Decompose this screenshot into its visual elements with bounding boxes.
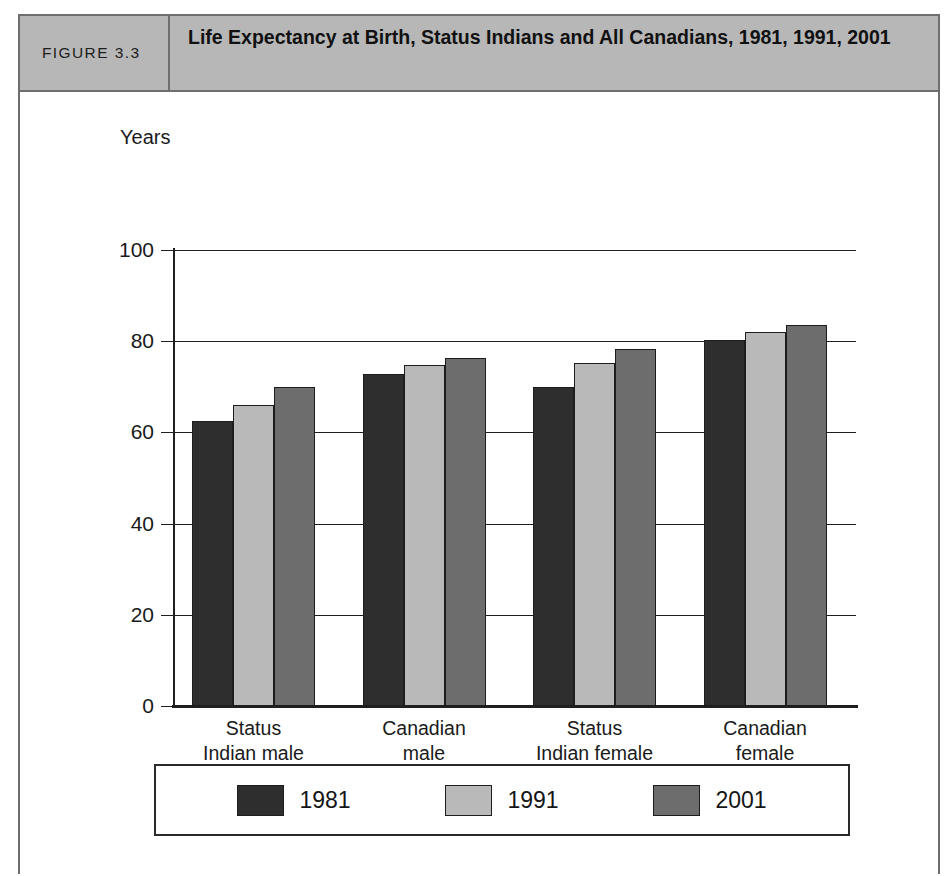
y-tick-label-40: 40 bbox=[131, 512, 154, 536]
legend-item[interactable]: 2001 bbox=[653, 785, 766, 816]
y-tick-mark-40 bbox=[161, 524, 174, 525]
y-tick-label-80: 80 bbox=[131, 329, 154, 353]
y-tick-label-20: 20 bbox=[131, 603, 154, 627]
figure-frame: FIGURE 3.3 Life Expectancy at Birth, Sta… bbox=[18, 14, 940, 874]
bar bbox=[574, 363, 615, 706]
bar bbox=[274, 387, 315, 706]
legend-label: 1991 bbox=[507, 787, 558, 814]
category-label-line: male bbox=[339, 741, 509, 766]
y-tick-mark-80 bbox=[161, 341, 174, 342]
y-tick-label-0: 0 bbox=[142, 694, 154, 718]
legend-item[interactable]: 1981 bbox=[237, 785, 350, 816]
bar-group bbox=[363, 250, 486, 706]
chart-legend: 198119912001 bbox=[154, 764, 850, 836]
legend-swatch-icon bbox=[653, 785, 700, 816]
y-tick-label-100: 100 bbox=[119, 238, 154, 262]
legend-label: 1981 bbox=[299, 787, 350, 814]
chart-area: Years 020406080100 StatusIndian maleCana… bbox=[20, 92, 938, 876]
x-axis-category-label: StatusIndian female bbox=[510, 716, 680, 766]
legend-swatch-icon bbox=[237, 785, 284, 816]
bar bbox=[745, 332, 786, 706]
bar bbox=[533, 387, 574, 706]
y-tick-mark-20 bbox=[161, 615, 174, 616]
legend-label: 2001 bbox=[715, 787, 766, 814]
category-label-line: Indian female bbox=[510, 741, 680, 766]
x-axis-category-label: Canadianfemale bbox=[680, 716, 850, 766]
bar-group bbox=[192, 250, 315, 706]
y-tick-mark-0 bbox=[161, 706, 174, 707]
x-axis-category-label: StatusIndian male bbox=[169, 716, 339, 766]
y-tick-mark-100 bbox=[161, 250, 174, 251]
figure-number-label: FIGURE 3.3 bbox=[20, 16, 168, 90]
bar-series-container bbox=[174, 250, 856, 706]
bar bbox=[363, 374, 404, 706]
category-label-line: Status bbox=[169, 716, 339, 741]
bar bbox=[233, 405, 274, 706]
bar-group bbox=[533, 250, 656, 706]
category-label-line: Canadian bbox=[680, 716, 850, 741]
category-label-line: female bbox=[680, 741, 850, 766]
legend-item[interactable]: 1991 bbox=[445, 785, 558, 816]
bar-group bbox=[704, 250, 827, 706]
x-axis-category-label: Canadianmale bbox=[339, 716, 509, 766]
bar bbox=[615, 349, 656, 706]
bar bbox=[404, 365, 445, 706]
figure-title: Life Expectancy at Birth, Status Indians… bbox=[168, 16, 938, 90]
figure-header: FIGURE 3.3 Life Expectancy at Birth, Sta… bbox=[20, 16, 938, 92]
bar bbox=[192, 421, 233, 706]
bar bbox=[704, 340, 745, 706]
bar bbox=[786, 325, 827, 706]
plot-area: 020406080100 StatusIndian maleCanadianma… bbox=[174, 250, 856, 706]
y-axis-title: Years bbox=[120, 126, 170, 149]
category-label-line: Canadian bbox=[339, 716, 509, 741]
y-tick-label-60: 60 bbox=[131, 420, 154, 444]
category-label-line: Indian male bbox=[169, 741, 339, 766]
y-tick-mark-60 bbox=[161, 432, 174, 433]
legend-swatch-icon bbox=[445, 785, 492, 816]
category-label-line: Status bbox=[510, 716, 680, 741]
bar bbox=[445, 358, 486, 706]
